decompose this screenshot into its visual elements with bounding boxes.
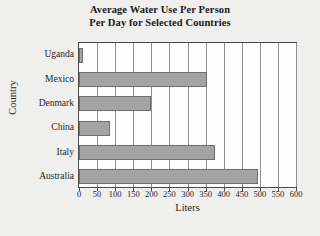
bar-china <box>79 121 110 136</box>
y-tick-label-uganda: Uganda <box>0 49 74 59</box>
plot-area <box>78 42 297 188</box>
bar-mexico <box>79 72 207 87</box>
y-tick-label-denmark: Denmark <box>0 98 74 108</box>
bar-denmark <box>79 96 151 111</box>
x-axis-title: Liters <box>78 202 297 213</box>
bar-italy <box>79 145 215 160</box>
chart-title: Average Water Use Per Person Per Day for… <box>0 4 320 29</box>
y-tick-label-australia: Australia <box>0 171 74 181</box>
bar-chart-figure: Average Water Use Per Person Per Day for… <box>0 0 320 236</box>
y-tick-label-china: China <box>0 122 74 132</box>
bar-australia <box>79 169 258 184</box>
chart-title-line-2: Per Day for Selected Countries <box>0 17 320 30</box>
x-tick-label-600: 600 <box>276 190 316 199</box>
chart-title-line-1: Average Water Use Per Person <box>0 4 320 17</box>
gridline <box>296 43 297 187</box>
bar-uganda <box>79 48 83 63</box>
bars-layer <box>79 43 296 187</box>
y-tick-label-italy: Italy <box>0 147 74 157</box>
y-tick-label-mexico: Mexico <box>0 74 74 84</box>
